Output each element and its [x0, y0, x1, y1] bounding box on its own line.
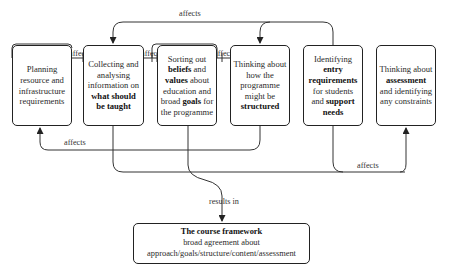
box-structuring: Thinking about how the programme might b…	[230, 45, 290, 126]
arrow-to-assessment	[400, 128, 406, 172]
arrow-top-to-structuring	[260, 22, 270, 43]
box-collecting-text: Collecting and analysing information on …	[86, 59, 141, 112]
box-course-framework: The course framework broad agreement abo…	[133, 223, 310, 264]
course-framework-line2: approach/goals/structure/content/assessm…	[147, 249, 296, 260]
box-sorting-text: Sorting out beliefs and values about edu…	[160, 54, 214, 118]
box-structuring-text: Thinking about how the programme might b…	[233, 59, 287, 112]
arrow-entry-to-collecting	[113, 22, 333, 45]
course-framework-line1: broad agreement about	[183, 238, 260, 249]
box-planning: Planning resource and infrastructure req…	[12, 45, 72, 126]
results-in-label: results in	[209, 197, 239, 206]
bottom-right-affects-label: affects	[357, 161, 379, 170]
top-affects-label: affects	[179, 9, 201, 18]
course-framework-title: The course framework	[181, 227, 262, 238]
box-sorting: Sorting out beliefs and values about edu…	[157, 45, 217, 126]
box-entry: Identifying entry requirements for stude…	[303, 45, 363, 126]
box-assessment-text: Thinking about assessment and identifyin…	[379, 64, 433, 106]
box-assessment: Thinking about assessment and identifyin…	[376, 45, 436, 126]
arrow-results-in	[188, 126, 222, 221]
box-collecting: Collecting and analysing information on …	[83, 45, 144, 126]
bottom-left-affects-label: affects	[64, 138, 86, 147]
box-entry-text: Identifying entry requirements for stude…	[306, 54, 360, 118]
box-planning-text: Planning resource and infrastructure req…	[15, 64, 69, 106]
